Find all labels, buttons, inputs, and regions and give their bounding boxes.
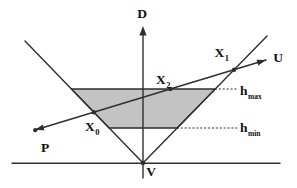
cone-diagram-figure: D U P V X0 X2 X1 hmax hmin — [0, 0, 297, 188]
hmin-label: hmin — [240, 120, 261, 138]
p-axis-label: P — [41, 140, 49, 155]
vertex-v-label: V — [146, 164, 156, 179]
point-x1-label: X1 — [215, 45, 230, 63]
point-x1-dot — [232, 68, 236, 72]
u-axis-label: U — [273, 50, 283, 65]
vertex-v-dot — [141, 161, 145, 165]
cone-diagram-canvas: D U P V X0 X2 X1 hmax hmin — [0, 0, 297, 188]
arrowhead-up-icon — [139, 26, 146, 36]
point-x0-dot — [92, 110, 96, 114]
d-axis-label: D — [137, 6, 147, 21]
point-x2-label: X2 — [156, 72, 171, 90]
arrowhead-u-icon — [257, 60, 267, 66]
hmax-label: hmax — [240, 83, 262, 101]
point-x0-label: X0 — [85, 119, 100, 137]
p-endpoint-dot — [33, 128, 37, 132]
